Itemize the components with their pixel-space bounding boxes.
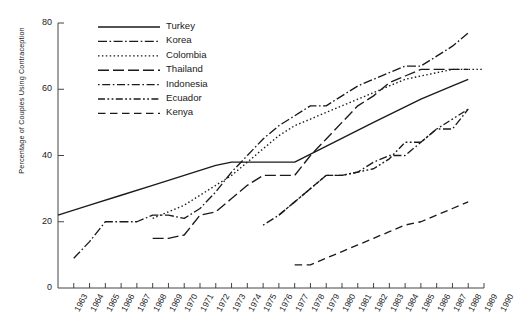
data-series-layer: [58, 33, 484, 265]
legend-label-colombia: Colombia: [166, 49, 207, 60]
y-tick-label: 40: [30, 150, 52, 160]
series-line-ecuador: [279, 109, 468, 215]
series-line-colombia: [153, 69, 484, 218]
legend-label-indonesia: Indonesia: [166, 78, 208, 89]
legend-label-turkey: Turkey: [166, 20, 195, 31]
y-tick-label: 20: [30, 216, 52, 226]
y-tick-label: 80: [30, 17, 52, 27]
legend-label-korea: Korea: [166, 34, 192, 45]
axis-ticks: [58, 23, 484, 288]
y-tick-label: 0: [30, 282, 52, 292]
series-line-turkey: [58, 79, 468, 215]
series-line-kenya: [295, 202, 469, 265]
y-tick-label: 60: [30, 83, 52, 93]
axis-lines: [58, 23, 484, 288]
legend-line-samples: [98, 27, 160, 113]
legend-label-kenya: Kenya: [166, 106, 193, 117]
legend-label-thailand: Thailand: [166, 63, 203, 74]
x-tick-label: 1990: [498, 292, 515, 313]
legend-label-ecuador: Ecuador: [166, 92, 202, 103]
